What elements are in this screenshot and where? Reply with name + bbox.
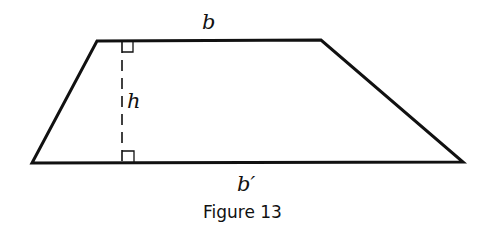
right-angle-marker-bottom (122, 151, 134, 162)
right-angle-marker-top (122, 42, 133, 52)
height-label: h (127, 91, 141, 112)
bottom-base-label: b′ (237, 174, 255, 195)
top-base-label: b (202, 12, 215, 33)
trapezoid-outline (32, 40, 463, 163)
figure-caption: Figure 13 (203, 204, 282, 221)
